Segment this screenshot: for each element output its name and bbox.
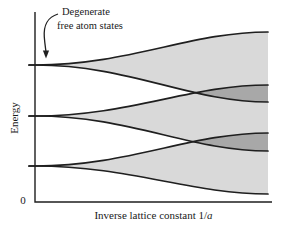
x-axis-label: Inverse lattice constant 1/a <box>35 209 272 222</box>
annotation-arrow <box>44 14 58 52</box>
annotation-line1: Degenerate <box>57 5 123 19</box>
y-axis-label: Energy <box>7 88 21 148</box>
x-axis-label-text: Inverse lattice constant 1/ <box>94 209 207 221</box>
figure-canvas: Degenerate free atom states Energy 0 Inv… <box>0 0 285 234</box>
annotation-label: Degenerate free atom states <box>57 5 123 32</box>
annotation-line2: free atom states <box>57 19 123 33</box>
annotation-arrowhead-icon <box>43 51 49 59</box>
x-axis-label-variable: a <box>207 209 213 221</box>
band-diagram-svg <box>0 0 285 234</box>
band-diagram <box>0 0 285 234</box>
origin-tick-label: 0 <box>17 194 29 206</box>
